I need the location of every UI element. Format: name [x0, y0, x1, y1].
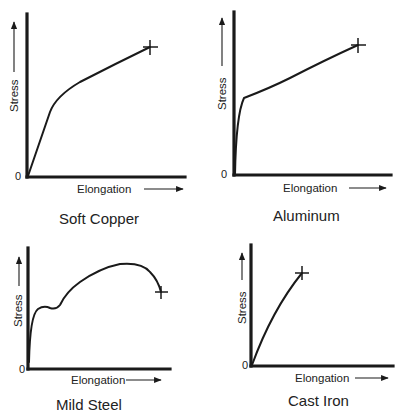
x-axis-label: Elongation — [295, 372, 349, 384]
y-axis-label: Stress — [8, 79, 20, 112]
x-axis-label: Elongation — [283, 182, 337, 194]
origin-label: 0 — [19, 363, 25, 375]
stress-strain-curve — [28, 47, 150, 176]
panel-title: Cast Iron — [288, 392, 349, 409]
stress-strain-curve — [235, 45, 358, 175]
fracture-marker-icon — [351, 38, 366, 53]
panel-soft-copper: 0 Stress Elongation Soft Copper — [8, 14, 185, 227]
x-axis-label: Elongation — [77, 183, 131, 195]
fracture-marker-icon — [143, 40, 158, 55]
origin-label: 0 — [242, 359, 248, 371]
x-axis-label: Elongation — [71, 374, 125, 386]
y-axis-label: Stress — [12, 294, 24, 327]
fracture-marker-icon — [155, 286, 168, 299]
origin-label: 0 — [221, 168, 227, 180]
stress-strain-figure: 0 Stress Elongation Soft Copper 0 Stress… — [0, 0, 401, 419]
panel-cast-iron: 0 Stress Elongation Cast Iron — [236, 245, 393, 409]
panel-mild-steel: 0 Stress Elongation Mild Steel — [12, 248, 170, 413]
panel-title: Soft Copper — [59, 210, 139, 227]
origin-label: 0 — [15, 170, 21, 182]
panel-title: Mild Steel — [56, 396, 122, 413]
panel-aluminum: 0 Stress Elongation Aluminum — [216, 12, 391, 224]
y-axis-label: Stress — [236, 291, 248, 324]
stress-strain-curve — [29, 264, 161, 362]
stress-strain-curve — [252, 273, 302, 365]
y-axis-label: Stress — [216, 77, 228, 110]
panel-title: Aluminum — [273, 207, 340, 224]
